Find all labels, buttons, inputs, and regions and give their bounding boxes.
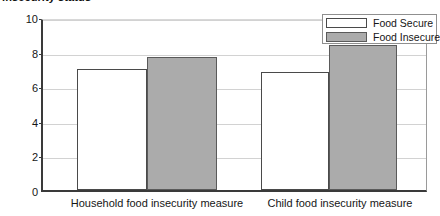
legend-item-food-insecure: Food Insecure bbox=[326, 31, 433, 43]
page-title: insecurity status bbox=[2, 0, 91, 3]
legend-swatch-food-secure bbox=[326, 18, 367, 28]
plot-area bbox=[41, 19, 427, 192]
y-tick-label-2: 2 bbox=[20, 151, 38, 163]
bar-household-food-insecure bbox=[147, 57, 217, 190]
x-label-child: Child food insecurity measure bbox=[245, 197, 435, 209]
legend-label-food-secure: Food Secure bbox=[373, 17, 433, 29]
y-tick-label-4: 4 bbox=[20, 117, 38, 129]
y-tick-label-10: 10 bbox=[20, 13, 38, 25]
bar-child-food-secure bbox=[261, 72, 329, 190]
bar-household-food-secure bbox=[77, 69, 147, 190]
legend-item-food-secure: Food Secure bbox=[326, 17, 433, 29]
legend-swatch-food-insecure bbox=[326, 32, 367, 42]
legend: Food Secure Food Insecure bbox=[322, 14, 437, 44]
bar-child-food-insecure bbox=[329, 45, 397, 190]
y-tick-label-6: 6 bbox=[20, 82, 38, 94]
legend-label-food-insecure: Food Insecure bbox=[373, 31, 440, 43]
y-tick-label-8: 8 bbox=[20, 48, 38, 60]
x-label-household: Household food insecurity measure bbox=[62, 197, 252, 209]
y-tick-label-0: 0 bbox=[20, 186, 38, 198]
